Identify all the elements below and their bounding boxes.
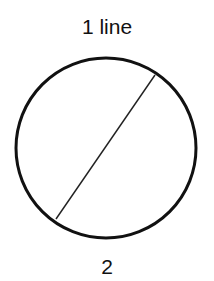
region-count: 2 [0,256,214,278]
chord-line [56,75,155,219]
circle [16,58,196,238]
circle-diagram [0,0,214,281]
